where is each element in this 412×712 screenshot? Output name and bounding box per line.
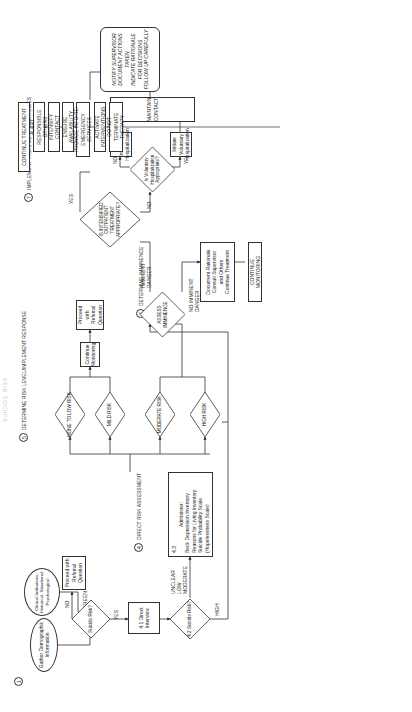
edge-label-high: HIGH	[214, 604, 220, 617]
edge-label-unclear-low-moderate: UNCLEAR LOW MODERATE	[170, 564, 188, 594]
suicide-risk-screen-text: Suicide Risk?	[72, 600, 110, 638]
suicide-risk-42-diamond: 4.2 Suicide Risk?	[170, 599, 210, 639]
voluntary-hosp-diamond: Is Voluntary Hospitalization Appropriate…	[130, 147, 175, 192]
edge-label-no-screen: NO	[64, 601, 70, 609]
continue-monitoring-box-2: CONTINUE MONITORING	[248, 242, 262, 302]
direct-risk-assessment-title: DIRECT RISK ASSESSMENT	[136, 473, 142, 540]
edge-label-no-outpatient: NO	[146, 202, 152, 210]
notify-line: INDICATE RATIONALE FOR DECISIONS	[130, 28, 143, 91]
high-risk-diamond: HIGH RISK	[190, 392, 220, 437]
step-7-marker: 7	[24, 193, 33, 202]
high-risk-text: HIGH RISK	[190, 392, 220, 437]
intensified-outpatient-diamond: IS INTENSIFIED OUTPATIENT TREATMENT APPR…	[80, 192, 140, 247]
ensure-availability-box: ENSURE AVAILABILITY	[62, 102, 74, 152]
moderate-risk-diamond: MODERATE RISK	[145, 392, 175, 437]
flowchart-page: SUICIDE RISK	[0, 0, 412, 712]
clinical-indications-ellipse: Clinical Indications: Historical- Situat…	[24, 568, 60, 616]
intensified-outpatient-text: IS INTENSIFIED OUTPATIENT TREATMENT APPR…	[80, 192, 140, 247]
notify-line: DOCUMENT ACTIONS TAKEN	[117, 28, 130, 91]
assess-imminence-diamond: ASSESS IMMINENCE	[140, 292, 185, 337]
direct-interview-box: 4.1 Direct Interview	[128, 602, 160, 634]
edge-label-no-imminent-danger: NO IMMINENT DANGER	[188, 278, 200, 312]
mild-risk-diamond: MILD RISK	[95, 392, 125, 437]
determine-risk-level-title: DETERMINE RISK LEVEL/IMPLEMENT RESPONSE	[21, 311, 27, 430]
gather-demographic-ellipse: Gather Demographic Information	[30, 618, 58, 672]
none-low-risk-diamond: NONE TO LOW RISK	[55, 392, 85, 437]
notify-line: FOLLOW UP CAREFULLY	[143, 30, 150, 90]
continue-treatment-box: CONTINUE TREATMENT	[18, 102, 30, 172]
document-rationale-box: Document Rationale Consult Supervisor an…	[200, 242, 235, 302]
edge-label-imminent-danger: IMMINENT DANGER	[140, 258, 152, 288]
none-low-risk-text: NONE TO LOW RISK	[55, 392, 85, 437]
activate-interventions-box: ACTIVATE INTERVENTIONS	[94, 102, 106, 152]
assess-imminence-text: ASSESS IMMINENCE	[140, 292, 185, 337]
step-5-marker: 5	[19, 433, 28, 442]
suicide-risk-screen-diamond: Suicide Risk?	[72, 600, 110, 638]
alert-responsible-box: ALERT RESPONSIBLE OTHERS	[33, 102, 45, 152]
document-rationale-line: Continue Treatment	[224, 250, 231, 294]
suicide-risk-42-text: 4.2 Suicide Risk?	[170, 599, 210, 639]
provide-info-box: PROVIDE INFO RE: EMERGENCY SERVICES	[76, 102, 90, 157]
initiate-voluntary-box: Initiate Voluntary Hospitalization	[170, 132, 192, 157]
administer-43-box: 4.3 Administer: Beck Depression Inventor…	[168, 472, 213, 557]
continue-monitoring-box-1: Continue Monitoring	[80, 342, 100, 367]
mild-risk-text: MILD RISK	[95, 392, 125, 437]
edge-label-yes-outpatient: YES	[68, 194, 74, 204]
moderate-risk-text: MODERATE RISK	[145, 392, 175, 437]
proceed-referral-box-2: Proceed with Referral Question	[76, 300, 104, 330]
edge-label-yes-screen: YES	[113, 610, 119, 620]
voluntary-hosp-text: Is Voluntary Hospitalization Appropriate…	[130, 147, 175, 192]
administer-item: (Hopelessness Scale)	[204, 504, 211, 553]
notify-supervisor-box: NOTIFY SUPERVISOR DOCUMENT ACTIONS TAKEN…	[100, 27, 160, 92]
do-not-terminate-box: DO NOT TERMINATE THERAPY	[109, 102, 123, 152]
step-4-marker: 4	[134, 543, 143, 552]
proceed-referral-box-1: Proceed with Referral Question	[62, 556, 86, 590]
administer-num: 4.3	[171, 546, 178, 553]
intensify-contact-box: INTENSIFY CONTACT	[48, 102, 60, 152]
step-1-marker: 1	[14, 677, 23, 686]
